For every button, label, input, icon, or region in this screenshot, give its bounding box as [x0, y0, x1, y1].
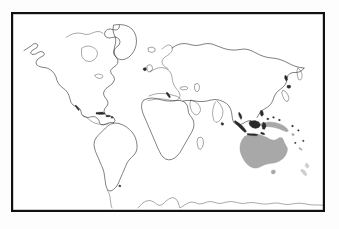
region-borneo-island [249, 121, 261, 129]
region-sri-lanka-island [221, 123, 224, 126]
region-japan-outline [282, 90, 289, 102]
coastline-layer [24, 25, 323, 209]
region-india-outline [213, 101, 224, 123]
world-map-figure [0, 0, 339, 229]
world-map-canvas [11, 12, 325, 212]
region-australia-fill [240, 134, 288, 168]
region-island-dot-3 [278, 119, 280, 121]
region-caspian-sea-outline [195, 84, 200, 93]
region-pacific-island-dot-4 [294, 142, 296, 144]
region-island-dot-2 [273, 117, 275, 119]
region-ireland-island [143, 68, 147, 72]
region-scandinavia-outline [162, 45, 173, 69]
region-malay-peninsula [239, 112, 243, 120]
region-new-zealand-south-fill [301, 169, 308, 176]
region-arabia-outline [190, 100, 201, 115]
region-timor-island [261, 132, 266, 135]
region-antarctic-peninsula-outline [107, 190, 112, 208]
region-asia-south-outline [183, 100, 251, 126]
region-iceland-outline [148, 47, 155, 53]
region-falkland-islands [119, 185, 121, 187]
region-north-america-east-outline [104, 26, 121, 123]
region-new-caledonia-fill [299, 147, 303, 151]
region-hudson-bay-outline [82, 46, 98, 62]
region-hokkaido-island [287, 85, 291, 89]
region-canada-arctic-outline [66, 32, 103, 38]
region-hispaniola-island [106, 115, 111, 117]
region-pacific-island-dot-2 [298, 130, 300, 132]
region-pacific-island-dot-3 [302, 140, 304, 142]
region-africa-outline [142, 98, 195, 160]
region-asia-east-outline [257, 68, 304, 118]
region-mediterranean-outline [149, 94, 181, 100]
region-great-lakes-outline [95, 74, 103, 79]
region-tasmania-fill [271, 170, 275, 174]
region-sakhalin-island [285, 75, 288, 81]
region-cuba-island [96, 112, 105, 115]
region-melanesia-fill [292, 133, 295, 136]
region-kamchatka-outline [297, 68, 302, 80]
region-madagascar-outline [197, 137, 204, 150]
region-baja-california [75, 105, 80, 111]
region-new-zealand-north-fill [305, 163, 309, 168]
region-island-dot-1 [267, 118, 269, 120]
region-antarctica-outline [138, 198, 323, 209]
region-asia-north-outline [172, 44, 304, 69]
region-italy-peninsula [166, 92, 171, 98]
map-border [12, 13, 324, 211]
region-philippines-island [260, 110, 264, 117]
region-south-america-outline [94, 123, 137, 191]
map-frame [11, 12, 325, 212]
region-black-sea-outline [180, 87, 188, 90]
region-pacific-island-dot-1 [292, 125, 294, 127]
